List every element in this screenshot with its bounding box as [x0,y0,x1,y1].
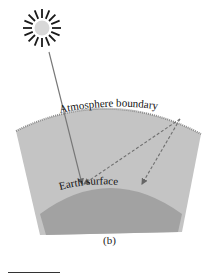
figure-caption: (b) [0,234,219,246]
footnote-rule [8,272,60,273]
sun-icon [23,9,61,47]
